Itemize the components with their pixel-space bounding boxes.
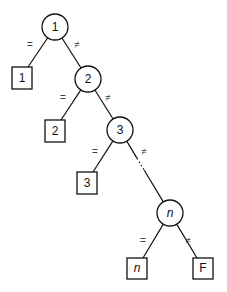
not-equal-label: ≠ xyxy=(185,235,191,246)
comparison-node-label: 3 xyxy=(117,123,124,137)
edge-line xyxy=(144,170,163,202)
leaf-node-label: F xyxy=(199,261,206,275)
edge-ellipsis xyxy=(137,158,144,170)
equal-label: = xyxy=(60,92,66,103)
leaf-node-label: n xyxy=(134,261,141,275)
leaf-node-label: 2 xyxy=(52,124,59,138)
leaf-node-label: 1 xyxy=(19,71,26,85)
not-equal-label: ≠ xyxy=(141,146,147,157)
edge-line xyxy=(127,141,137,158)
leaf-node-label: 3 xyxy=(84,176,91,190)
not-equal-label: ≠ xyxy=(74,39,80,50)
comparison-node-label: 1 xyxy=(52,20,59,34)
equal-label: = xyxy=(140,235,146,246)
equal-label: = xyxy=(92,146,98,157)
equal-label: = xyxy=(27,39,33,50)
edge-line xyxy=(143,224,163,258)
not-equal-label: ≠ xyxy=(105,92,111,103)
comparison-node-label: 2 xyxy=(85,72,92,86)
comparison-node-label: n xyxy=(167,206,174,220)
leaf-nodes: 123nF xyxy=(12,67,213,279)
decision-tree-diagram: =≠=≠=≠=≠ 123n 123nF xyxy=(0,0,227,292)
